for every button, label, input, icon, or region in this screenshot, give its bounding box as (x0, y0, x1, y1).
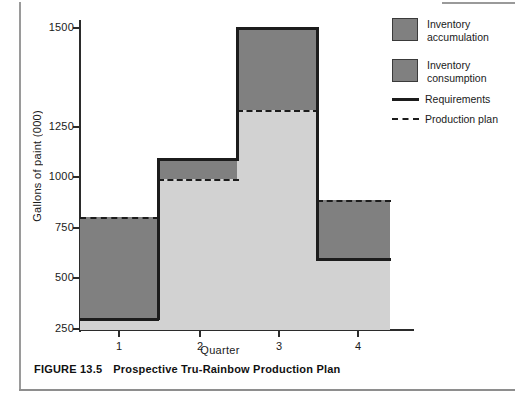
production-plan-step-q1 (80, 217, 159, 219)
y-tick-label-1000: 1000 (49, 171, 74, 182)
frame-top-rule (442, 2, 515, 4)
y-axis-label: Gallons of paint (000) (31, 110, 43, 222)
figure-caption-number: FIGURE 13.5 (34, 363, 102, 375)
requirements-riser-q2-q3 (236, 27, 239, 160)
legend-item-inventory-consumption: Inventory consumption (392, 59, 515, 84)
y-tick-label-1250: 1250 (49, 121, 74, 132)
base-fill-q3 (237, 110, 317, 330)
base-fill-q2 (158, 179, 237, 330)
y-tick-label-500: 500 (55, 272, 74, 283)
figure-caption-title: Prospective Tru-Rainbow Production Plan (113, 363, 340, 375)
legend-swatch-icon-accumulation (392, 18, 418, 41)
plot-region: 250 500 750 1000 1250 1500 (80, 27, 390, 330)
legend-label-production-plan: Production plan (425, 113, 498, 126)
inventory-band-q2 (158, 159, 237, 179)
x-tick-3 (278, 330, 280, 337)
x-tick-1 (118, 330, 120, 337)
requirements-step-q4 (316, 258, 391, 261)
chart-area: Gallons of paint (000) 250 500 750 1000 … (0, 0, 440, 350)
y-tick-1500 (73, 27, 80, 29)
production-plan-step-q2 (158, 179, 239, 181)
inventory-band-q3 (237, 27, 317, 110)
legend-label-accumulation: Inventory accumulation (427, 18, 489, 43)
y-tick-label-1500: 1500 (49, 22, 74, 33)
chart-legend: Inventory accumulation Inventory consump… (392, 18, 515, 132)
requirements-riser-q1-q2 (157, 159, 160, 320)
requirements-step-q2 (157, 158, 239, 161)
inventory-band-q1 (80, 217, 158, 319)
legend-label-consumption: Inventory consumption (427, 59, 487, 84)
y-tick-250 (73, 328, 80, 330)
legend-label-requirements: Requirements (425, 93, 490, 106)
legend-dashed-line-icon (392, 118, 419, 120)
legend-solid-line-icon (392, 98, 419, 101)
legend-item-requirements: Requirements (392, 93, 515, 106)
x-tick-2 (199, 330, 201, 337)
requirements-step-q3 (236, 27, 319, 30)
legend-item-inventory-accumulation: Inventory accumulation (392, 18, 515, 43)
y-tick-label-250: 250 (55, 323, 74, 334)
y-tick-label-750: 750 (55, 222, 74, 233)
figure-caption: FIGURE 13.5Prospective Tru-Rainbow Produ… (34, 363, 340, 375)
y-tick-750 (73, 227, 80, 229)
frame-bottom-rule (19, 389, 515, 391)
x-tick-4 (357, 330, 359, 337)
y-tick-1250 (73, 126, 80, 128)
production-plan-step-q3 (237, 110, 319, 112)
x-axis-label: Quarter (0, 344, 440, 356)
y-tick-1000 (73, 176, 80, 178)
production-plan-step-q4 (317, 200, 391, 202)
inventory-band-q4 (317, 200, 390, 259)
figure-frame: Gallons of paint (000) 250 500 750 1000 … (0, 0, 515, 401)
y-tick-500 (73, 277, 80, 279)
requirements-step-q1 (80, 318, 159, 321)
base-fill-q4 (317, 259, 390, 330)
requirements-riser-q3-q4 (316, 27, 319, 261)
legend-swatch-icon-consumption (392, 59, 418, 82)
legend-item-production-plan: Production plan (392, 113, 515, 126)
